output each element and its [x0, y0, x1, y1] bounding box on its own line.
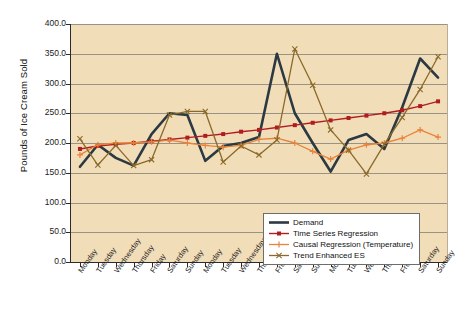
legend-label: Demand: [290, 218, 323, 227]
series-marker-2: [399, 135, 405, 141]
series-marker-1: [275, 126, 279, 130]
series-marker-1: [293, 123, 297, 127]
legend-swatch-icon: [268, 217, 290, 228]
series-marker-1: [185, 136, 189, 140]
series-marker-1: [418, 104, 422, 108]
series-marker-3: [418, 87, 423, 92]
series-marker-2: [184, 140, 190, 146]
series-marker-3: [310, 83, 315, 88]
legend-item-1[interactable]: Time Series Regression: [268, 228, 413, 239]
series-marker-1: [221, 132, 225, 136]
legend-swatch-icon: [268, 228, 290, 239]
legend-item-2[interactable]: Causal Regression (Temperature): [268, 239, 413, 250]
legend-label: Causal Regression (Temperature): [290, 240, 413, 249]
series-marker-1: [203, 134, 207, 138]
legend-item-3[interactable]: Trend Enhanced ES: [268, 250, 413, 261]
legend-label: Time Series Regression: [290, 229, 378, 238]
series-marker-1: [347, 116, 351, 120]
series-marker-2: [166, 137, 172, 143]
series-lines-layer: [0, 0, 470, 333]
series-marker-2: [202, 142, 208, 148]
series-marker-2: [131, 140, 137, 146]
series-marker-1: [400, 108, 404, 112]
series-marker-1: [257, 128, 261, 132]
series-marker-2: [328, 156, 334, 162]
series-marker-2: [310, 148, 316, 154]
series-marker-3: [364, 171, 369, 176]
series-marker-1: [382, 111, 386, 115]
series-marker-3: [77, 136, 82, 141]
series-marker-2: [417, 127, 423, 133]
series-marker-3: [328, 127, 333, 132]
chart-legend: DemandTime Series RegressionCausal Regre…: [263, 213, 420, 265]
series-marker-1: [78, 147, 82, 151]
chart-container: 400.0350.0300.0250.0200.0150.0100.050.00…: [0, 0, 470, 333]
series-marker-1: [436, 99, 440, 103]
legend-swatch-icon: [268, 250, 290, 261]
series-marker-2: [363, 142, 369, 148]
legend-swatch-icon: [268, 239, 290, 250]
series-marker-1: [311, 121, 315, 125]
legend-item-0[interactable]: Demand: [268, 217, 413, 228]
series-marker-1: [239, 130, 243, 134]
series-marker-1: [329, 118, 333, 122]
series-marker-3: [400, 115, 405, 120]
series-marker-2: [77, 152, 83, 158]
series-marker-2: [435, 134, 441, 140]
series-marker-1: [364, 114, 368, 118]
legend-label: Trend Enhanced ES: [290, 251, 365, 260]
series-marker-3: [435, 54, 440, 59]
series-marker-3: [95, 162, 100, 167]
series-marker-2: [292, 140, 298, 146]
series-marker-3: [256, 152, 261, 157]
